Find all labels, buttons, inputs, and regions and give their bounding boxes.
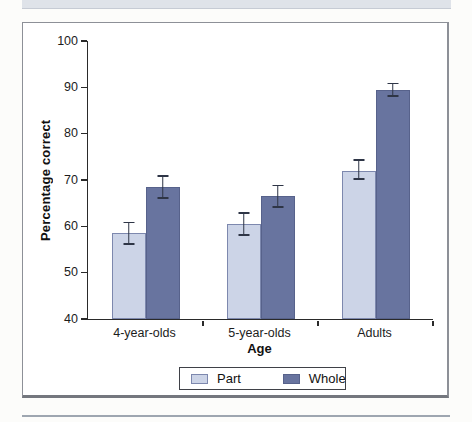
error-bar-whole-5-year-olds: [272, 185, 283, 208]
bar-whole-adults: [376, 90, 410, 319]
x-axis-tick: [202, 321, 204, 326]
plot-area: [87, 41, 433, 320]
error-bar-line: [162, 175, 164, 198]
bar-whole-4-year-olds: [146, 187, 180, 319]
x-axis-category-label: 4-year-olds: [87, 326, 202, 340]
error-bar-cap-top: [157, 175, 168, 177]
horizontal-rule: [22, 415, 450, 417]
x-axis-tick: [432, 321, 434, 326]
whole-series-swatch: [283, 374, 300, 384]
error-bar-line: [128, 222, 130, 245]
error-bar-cap-top: [353, 159, 364, 161]
x-axis-category-label: Adults: [317, 326, 432, 340]
y-axis-tick: [81, 133, 87, 135]
y-axis-tick-label: 100: [44, 34, 78, 48]
y-axis-tick-label: 40: [44, 312, 78, 326]
chart-panel: Percentage correct Age Part Whole 100908…: [22, 22, 449, 398]
x-axis-category-label: 5-year-olds: [202, 326, 317, 340]
y-axis-tick: [81, 179, 87, 181]
x-axis-tick: [317, 321, 319, 326]
part-series-swatch: [191, 374, 208, 384]
bar-part-adults: [342, 171, 376, 319]
bar-part-5-year-olds: [227, 224, 261, 319]
legend-label-whole: Whole: [309, 371, 346, 386]
adjacent-figure-strip: [22, 0, 451, 9]
y-axis-tick: [81, 318, 87, 320]
y-axis-tick-label: 90: [44, 80, 78, 94]
error-bar-cap-top: [123, 222, 134, 224]
error-bar-whole-4-year-olds: [157, 175, 168, 198]
error-bar-cap-bottom: [238, 234, 249, 236]
y-axis-tick: [81, 226, 87, 228]
scanned-figure-page: { "chart_data": { "type": "bar", "title"…: [0, 0, 472, 422]
legend: Part Whole: [179, 367, 346, 390]
legend-item-part: Part: [191, 371, 241, 386]
error-bar-cap-bottom: [272, 206, 283, 208]
error-bar-cap-bottom: [353, 178, 364, 180]
error-bar-part-adults: [353, 159, 364, 180]
legend-label-part: Part: [217, 371, 241, 386]
y-axis-tick-label: 80: [44, 126, 78, 140]
bar-whole-5-year-olds: [261, 196, 295, 319]
error-bar-cap-bottom: [387, 95, 398, 97]
error-bar-cap-top: [238, 212, 249, 214]
y-axis-tick-label: 50: [44, 265, 78, 279]
error-bar-cap-bottom: [123, 243, 134, 245]
y-axis-tick-label: 60: [44, 219, 78, 233]
error-bar-cap-top: [272, 185, 283, 187]
x-axis-title: Age: [87, 341, 432, 356]
legend-item-whole: Whole: [283, 371, 346, 386]
error-bar-cap-top: [387, 83, 398, 85]
y-axis-tick: [81, 272, 87, 274]
y-axis-tick-label: 70: [44, 173, 78, 187]
error-bar-whole-adults: [387, 83, 398, 97]
error-bar-part-5-year-olds: [238, 212, 249, 235]
error-bar-part-4-year-olds: [123, 222, 134, 245]
y-axis-tick: [81, 87, 87, 89]
y-axis-tick: [81, 40, 87, 42]
bar-part-4-year-olds: [112, 233, 146, 319]
error-bar-line: [243, 212, 245, 235]
error-bar-cap-bottom: [157, 197, 168, 199]
error-bar-line: [358, 159, 360, 180]
error-bar-line: [277, 185, 279, 208]
